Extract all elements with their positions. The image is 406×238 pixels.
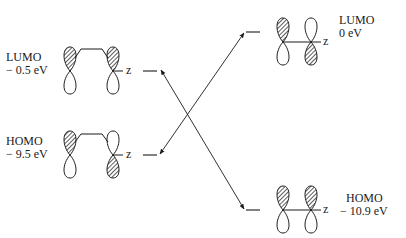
bridge-line xyxy=(75,134,108,142)
open-lobe-icon xyxy=(277,42,289,65)
shaded-lobe-icon xyxy=(64,47,76,71)
open-lobe-icon xyxy=(64,71,76,94)
shaded-lobe-icon xyxy=(107,155,119,178)
shaded-lobe-icon xyxy=(277,18,289,42)
shaded-lobe-icon xyxy=(64,131,76,155)
right-lumo-label: LUMO 0 eV xyxy=(339,14,374,40)
open-lobe-icon xyxy=(107,131,119,155)
bridge-line xyxy=(75,49,108,58)
left-homo-axis: z xyxy=(126,148,131,161)
shaded-lobe-icon xyxy=(107,47,119,71)
shaded-lobe-icon xyxy=(277,186,289,210)
left-homo-label: HOMO − 9.5 eV xyxy=(6,135,48,161)
left-lumo-axis: z xyxy=(126,64,131,77)
open-lobe-icon xyxy=(305,210,317,233)
lumo-homo-interaction-arrow xyxy=(161,70,244,209)
open-lobe-icon xyxy=(64,155,76,178)
shaded-lobe-icon xyxy=(305,42,317,65)
right-homo-orbitals xyxy=(246,186,321,233)
left-homo-orbitals xyxy=(64,131,157,178)
left-lumo-orbitals xyxy=(64,47,157,94)
right-lumo-orbitals xyxy=(246,18,321,65)
open-lobe-icon xyxy=(277,210,289,233)
right-homo-energy: − 10.9 eV xyxy=(340,205,388,218)
right-lumo-axis: z xyxy=(323,35,328,48)
right-homo-label: HOMO − 10.9 eV xyxy=(340,192,388,218)
shaded-lobe-icon xyxy=(305,186,317,210)
right-homo-axis: z xyxy=(323,203,328,216)
left-lumo-energy: − 0.5 eV xyxy=(6,64,48,77)
open-lobe-icon xyxy=(107,71,119,94)
open-lobe-icon xyxy=(305,18,317,42)
left-homo-energy: − 9.5 eV xyxy=(6,148,48,161)
homo-lumo-interaction-arrow xyxy=(160,33,244,154)
left-lumo-label: LUMO − 0.5 eV xyxy=(6,51,48,77)
right-lumo-energy: 0 eV xyxy=(339,27,374,40)
